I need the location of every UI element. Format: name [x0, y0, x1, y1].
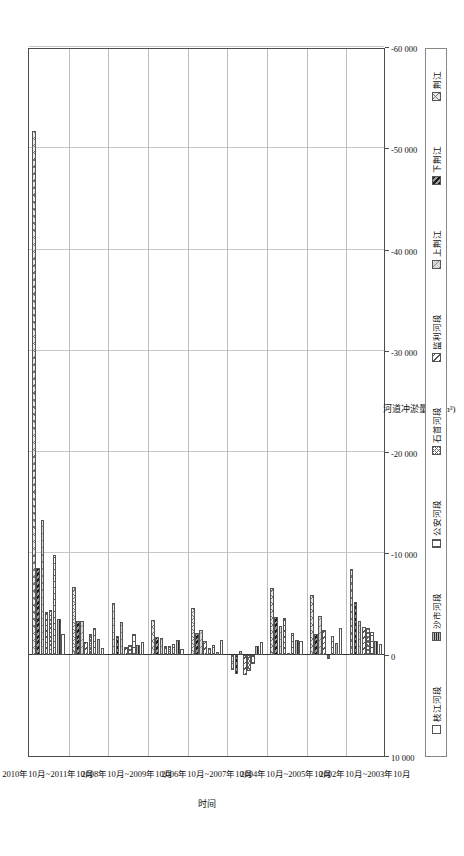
- bar-公安河段: [331, 637, 335, 655]
- legend-swatch-icon: [432, 446, 441, 455]
- legend-item-公安河段[interactable]: 公安河段: [430, 500, 442, 548]
- bar-上荆江: [279, 626, 283, 655]
- bar-公安河段: [212, 645, 216, 655]
- bar-石首河段: [208, 648, 212, 655]
- bar-下荆江: [155, 637, 159, 655]
- bar-下荆江: [195, 633, 199, 655]
- bar-石首河段: [366, 628, 370, 654]
- value-axis-tick-label: -50 000: [391, 145, 417, 155]
- bar-沙市河段: [97, 639, 101, 655]
- bar-公安河段: [93, 628, 97, 654]
- bar-枝江河段: [339, 628, 343, 654]
- bar-荆江: [72, 587, 76, 654]
- bar-上荆江: [239, 651, 243, 655]
- bar-监利河段: [45, 612, 49, 655]
- bar-枝江河段: [299, 641, 303, 655]
- bar-监利河段: [84, 642, 88, 655]
- bar-监利河段: [203, 641, 207, 655]
- bar-石首河段: [327, 655, 331, 659]
- legend-label: 荆江: [430, 71, 442, 89]
- gridline-vertical: [29, 552, 384, 553]
- bar-监利河段: [164, 646, 168, 655]
- bar-枝江河段: [260, 642, 264, 655]
- legend-label: 公安河段: [430, 500, 442, 536]
- bar-上荆江: [199, 630, 203, 655]
- legend-label: 石首河段: [430, 407, 442, 443]
- bar-上荆江: [160, 638, 164, 655]
- bar-荆江: [310, 595, 314, 655]
- value-axis-tick-label: -40 000: [391, 247, 417, 257]
- gridline-vertical: [29, 46, 384, 47]
- gridline-vertical: [29, 249, 384, 250]
- gridline-horizontal: [69, 49, 70, 756]
- bar-下荆江: [314, 634, 318, 655]
- bar-沙市河段: [335, 643, 339, 655]
- legend-label: 下荆江: [430, 146, 442, 173]
- bar-监利河段: [322, 630, 326, 654]
- bar-上荆江: [41, 520, 45, 655]
- bar-枝江河段: [180, 649, 184, 655]
- legend-item-荆江[interactable]: 荆江: [430, 71, 442, 101]
- bar-石首河段: [89, 634, 93, 655]
- bar-荆江: [231, 655, 235, 671]
- bar-公安河段: [251, 655, 255, 664]
- tick-mark: [385, 756, 389, 757]
- bar-石首河段: [49, 610, 53, 655]
- legend-swatch-icon: [432, 260, 441, 269]
- legend-swatch-icon: [432, 725, 441, 734]
- value-axis-tick-label: 10 000: [391, 753, 414, 763]
- bar-沙市河段: [136, 645, 140, 655]
- chart-page: 10 0000-10 000-20 000-30 000-40 000-50 0…: [0, 0, 464, 856]
- bar-沙市河段: [176, 640, 180, 655]
- bar-下荆江: [274, 617, 278, 654]
- bar-沙市河段: [216, 652, 220, 655]
- legend-item-石首河段[interactable]: 石首河段: [430, 407, 442, 455]
- bar-上荆江: [120, 622, 124, 655]
- tick-mark: [385, 655, 389, 656]
- bar-荆江: [350, 569, 354, 655]
- legend-label: 沙市河段: [430, 593, 442, 629]
- bar-荆江: [112, 603, 116, 655]
- bar-监利河段: [283, 618, 287, 654]
- gridline-horizontal: [227, 49, 228, 756]
- bar-下荆江: [76, 621, 80, 654]
- legend-item-监利河段[interactable]: 监利河段: [430, 314, 442, 362]
- tick-mark: [385, 553, 389, 554]
- bar-上荆江: [358, 621, 362, 654]
- bar-公安河段: [53, 555, 57, 654]
- bar-下荆江: [235, 655, 239, 675]
- bar-荆江: [151, 620, 155, 655]
- bar-枝江河段: [379, 644, 383, 655]
- time-axis-tick-label: 2008年10月~2009年10月: [81, 767, 173, 779]
- tick-mark: [385, 250, 389, 251]
- legend-swatch-icon: [432, 353, 441, 362]
- bar-石首河段: [128, 645, 132, 655]
- time-axis-tick-label: 2006年10月~2007年10月: [161, 767, 253, 779]
- legend-item-上荆江[interactable]: 上荆江: [430, 230, 442, 269]
- legend-label: 上荆江: [430, 230, 442, 257]
- bar-下荆江: [116, 637, 120, 655]
- bar-下荆江: [354, 602, 358, 655]
- bar-监利河段: [124, 647, 128, 655]
- gridline-horizontal: [148, 49, 149, 756]
- legend-item-下荆江[interactable]: 下荆江: [430, 146, 442, 185]
- legend-swatch-icon: [432, 539, 441, 548]
- bar-监利河段: [362, 627, 366, 654]
- gridline-vertical: [29, 451, 384, 452]
- bar-上荆江: [80, 621, 84, 654]
- bar-公安河段: [132, 634, 136, 654]
- value-axis-tick-label: -30 000: [391, 348, 417, 358]
- bar-荆江: [191, 608, 195, 655]
- bar-沙市河段: [374, 641, 378, 655]
- gridline-horizontal: [108, 49, 109, 756]
- time-axis-tick-label: 2004年10月~2005年10月: [240, 767, 332, 779]
- bar-石首河段: [287, 653, 291, 655]
- bar-荆江: [270, 588, 274, 655]
- value-axis-tick-label: -10 000: [391, 550, 417, 560]
- time-axis-tick-label: 2010年10月~2011年10月: [2, 767, 93, 779]
- gridline-horizontal: [307, 49, 308, 756]
- legend-swatch-icon: [432, 92, 441, 101]
- legend-item-枝江河段[interactable]: 枝江河段: [430, 686, 442, 734]
- legend-item-沙市河段[interactable]: 沙市河段: [430, 593, 442, 641]
- value-axis-tick-label: -20 000: [391, 449, 417, 459]
